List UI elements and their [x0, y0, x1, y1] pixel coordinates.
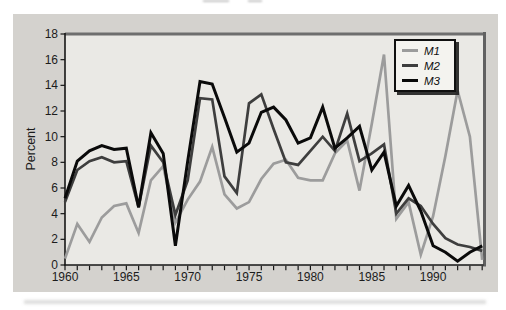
legend-item-m1: M1 [396, 43, 454, 58]
y-tick-label: 6 [28, 181, 58, 195]
legend-label: M3 [424, 75, 440, 87]
legend: M1M2M3 [394, 39, 456, 92]
x-tick-label: 1980 [292, 271, 328, 284]
x-tick-label: 1975 [231, 271, 267, 284]
legend-item-m3: M3 [396, 73, 454, 88]
x-tick-label: 1985 [354, 271, 390, 284]
y-tick-label: 12 [28, 104, 58, 118]
x-tick-label: 1990 [415, 271, 451, 284]
y-tick-label: 18 [28, 27, 58, 41]
y-tick-label: 8 [28, 155, 58, 169]
y-tick-label: 2 [28, 232, 58, 246]
x-tick-label: 1965 [108, 271, 144, 284]
y-tick-label: 10 [28, 130, 58, 144]
legend-swatch-m3 [402, 79, 418, 82]
y-tick-label: 4 [28, 207, 58, 221]
y-tick-label: 16 [28, 53, 58, 67]
y-tick-label: 14 [28, 78, 58, 92]
legend-label: M2 [424, 60, 440, 72]
legend-swatch-m2 [402, 64, 418, 67]
legend-label: M1 [424, 45, 440, 57]
legend-item-m2: M2 [396, 58, 454, 73]
x-tick-label: 1970 [170, 271, 206, 284]
figure: Percent 024681012141618 1960196519701975… [0, 0, 506, 310]
legend-swatch-m1 [402, 49, 418, 52]
x-tick-label: 1960 [47, 271, 83, 284]
